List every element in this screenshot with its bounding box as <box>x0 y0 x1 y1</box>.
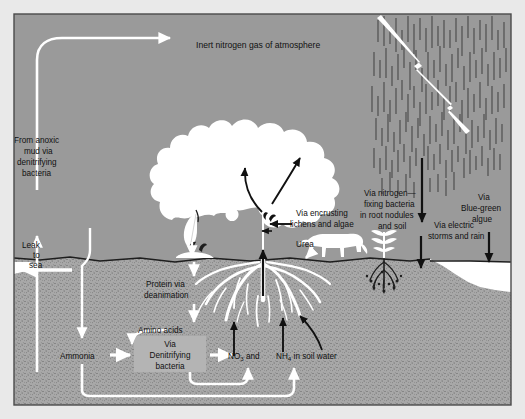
svg-text:From anoxic: From anoxic <box>14 136 59 145</box>
svg-text:fixing bacteria: fixing bacteria <box>364 200 415 209</box>
svg-text:algue: algue <box>472 215 492 224</box>
svg-text:mud via: mud via <box>24 147 53 156</box>
svg-text:denitrifying: denitrifying <box>17 158 57 167</box>
svg-text:bacteria: bacteria <box>22 169 52 178</box>
svg-text:Via encrusting: Via encrusting <box>296 209 348 218</box>
svg-text:NO3 and: NO3 and <box>228 352 260 362</box>
svg-text:storms and rain: storms and rain <box>428 232 485 241</box>
ammonia-label: Ammonia <box>60 352 95 361</box>
svg-text:Via electric: Via electric <box>434 221 474 230</box>
svg-text:Via: Via <box>164 340 176 349</box>
atmosphere-label: Inert nitrogen gas of atmosphere <box>196 40 320 50</box>
svg-text:Via nitrogen—: Via nitrogen— <box>364 189 417 198</box>
svg-text:Protein via: Protein via <box>146 280 185 289</box>
svg-text:Via: Via <box>478 193 490 202</box>
svg-text:deanimation: deanimation <box>144 291 189 300</box>
svg-text:in root nodules: in root nodules <box>360 211 414 220</box>
svg-text:lichens and algae: lichens and algae <box>290 220 354 229</box>
urea-label: Urea <box>296 240 314 249</box>
soil-water-label: NO3 and NH4 in soil water <box>228 352 337 362</box>
svg-text:NH4 in soil water: NH4 in soil water <box>276 352 337 362</box>
nitrogen-cycle-figure: Inert nitrogen gas of atmosphere From an… <box>0 0 525 419</box>
svg-text:Denitrifying: Denitrifying <box>150 351 191 360</box>
svg-text:Blue-green: Blue-green <box>461 204 502 213</box>
amino-acids-label: Amino acids <box>138 326 183 335</box>
svg-text:sea: sea <box>29 261 43 270</box>
svg-text:to: to <box>33 251 40 260</box>
svg-text:bacteria: bacteria <box>155 362 185 371</box>
svg-text:and soil: and soil <box>378 222 406 231</box>
svg-text:Leak: Leak <box>22 241 41 250</box>
